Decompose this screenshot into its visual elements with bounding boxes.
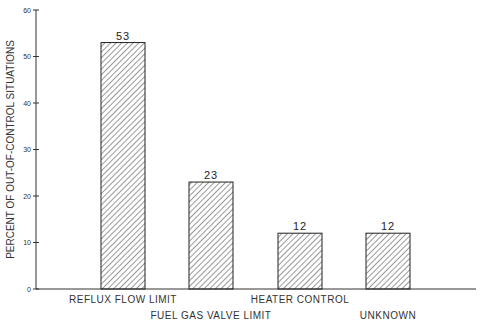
y-tick-label: 30 [23,146,31,153]
bar-value-label: 12 [293,220,307,232]
bar [101,43,145,289]
bar [189,182,233,289]
bar [278,233,322,289]
bar-value-label: 12 [381,220,395,232]
y-tick-label: 60 [23,7,31,14]
y-tick-label: 40 [23,100,31,107]
category-label: UNKNOWN [360,310,416,321]
category-label: HEATER CONTROL [251,294,350,305]
category-label: FUEL GAS VALVE LIMIT [151,310,272,321]
bar-value-label: 53 [116,30,130,42]
bar [366,233,410,289]
bar-value-label: 23 [204,169,218,181]
y-axis-label: PERCENT OF OUT-OF-CONTROL SITUATIONS [5,40,16,259]
y-tick-label: 20 [23,193,31,200]
bar-chart: 0102030405060PERCENT OF OUT-OF-CONTROL S… [0,0,482,326]
y-tick-label: 0 [27,286,31,293]
bars [101,43,410,289]
y-tick-label: 50 [23,53,31,60]
category-label: REFLUX FLOW LIMIT [69,294,177,305]
y-tick-label: 10 [23,239,31,246]
